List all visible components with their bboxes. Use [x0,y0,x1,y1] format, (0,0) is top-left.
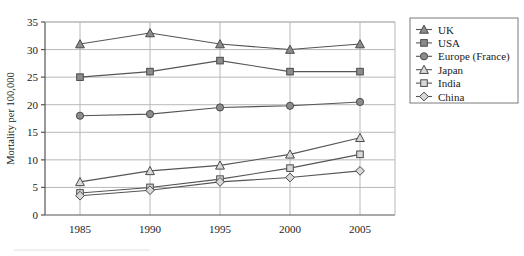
x-tick-label: 2000 [279,223,302,235]
data-point-uk [356,40,365,48]
data-point-europe-france [356,98,363,105]
legend-label: India [438,77,461,89]
data-point-india [357,151,364,158]
y-tick-labels: 05101520253035 [27,16,39,221]
data-point-china [356,166,365,175]
legend-marker-icon [421,80,428,87]
y-tick-label: 20 [27,99,39,111]
data-point-china [286,173,295,182]
y-tick-label: 30 [27,44,39,56]
data-point-uk [146,29,155,37]
data-point-usa [287,68,294,75]
data-point-europe-france [76,112,83,119]
data-point-europe-france [146,110,153,117]
data-point-japan [356,133,365,141]
line-chart: 05101520253035 19851990199520002005 Mort… [0,0,524,256]
legend-label: Japan [438,64,464,76]
x-tick-label: 1985 [69,223,92,235]
legend-label: Europe (France) [438,50,510,63]
y-tick-label: 5 [33,181,39,193]
legend-marker-icon [421,40,428,47]
y-axis-title: Mortality per 100,000 [5,72,16,164]
data-point-usa [147,68,154,75]
x-tick-label: 1995 [209,223,232,235]
legend-marker-icon [420,53,427,60]
x-tick-labels: 19851990199520002005 [69,223,372,235]
y-tick-label: 15 [27,126,39,138]
y-tick-label: 10 [27,154,39,166]
x-tick-label: 1990 [139,223,162,235]
y-axis-title-text: Mortality per 100,000 [5,72,16,164]
data-point-europe-france [216,104,223,111]
data-point-usa [357,68,364,75]
data-point-india [287,165,294,172]
y-tick-label: 35 [27,16,39,28]
y-tick-label: 0 [33,209,39,221]
legend-label: China [438,91,464,103]
y-tick-label: 25 [27,71,39,83]
data-point-usa [217,57,224,64]
legend-label: UK [438,24,454,36]
chart-canvas: 05101520253035 19851990199520002005 Mort… [0,0,524,256]
x-tick-label: 2005 [349,223,372,235]
data-point-europe-france [286,102,293,109]
data-point-usa [77,74,84,81]
legend-label: USA [438,37,460,49]
legend: UKUSAEurope (France)JapanIndiaChina [410,18,518,103]
